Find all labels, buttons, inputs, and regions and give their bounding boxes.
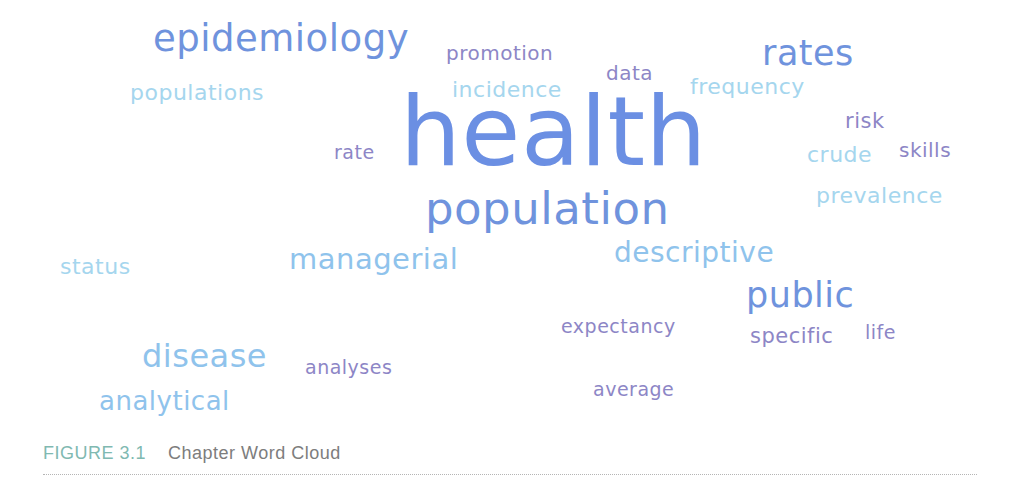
word-population: population — [425, 186, 669, 231]
word-crude: crude — [807, 144, 872, 166]
word-descriptive: descriptive — [614, 239, 774, 267]
word-analytical: analytical — [99, 388, 230, 414]
word-disease: disease — [142, 340, 267, 372]
word-analyses: analyses — [305, 358, 392, 377]
word-promotion: promotion — [446, 43, 553, 63]
word-rates: rates — [762, 36, 854, 71]
word-public: public — [746, 278, 854, 313]
word-managerial: managerial — [289, 245, 458, 274]
word-prevalence: prevalence — [816, 185, 943, 207]
figure-caption: FIGURE 3.1Chapter Word Cloud — [43, 443, 341, 464]
figure-label: FIGURE 3.1 — [43, 443, 146, 463]
caption-divider — [43, 474, 977, 475]
word-life: life — [865, 323, 896, 342]
word-cloud: health epidemiology population rates pub… — [0, 0, 1019, 430]
word-risk: risk — [845, 111, 885, 132]
word-expectancy: expectancy — [561, 317, 676, 336]
word-epidemiology: epidemiology — [153, 20, 409, 57]
word-data: data — [606, 63, 653, 83]
word-skills: skills — [899, 140, 951, 160]
word-specific: specific — [750, 326, 833, 347]
figure-title: Chapter Word Cloud — [168, 443, 341, 463]
word-rate: rate — [334, 143, 375, 162]
word-frequency: frequency — [690, 76, 805, 98]
word-incidence: incidence — [452, 79, 562, 101]
word-status: status — [60, 256, 131, 278]
word-average: average — [593, 380, 674, 399]
word-populations: populations — [130, 82, 264, 104]
